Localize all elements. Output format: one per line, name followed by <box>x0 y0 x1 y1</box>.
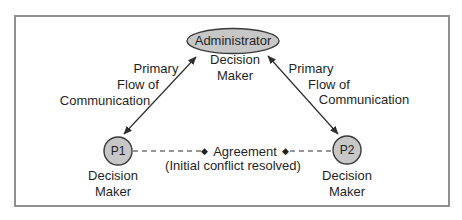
p1-role-line2: Maker <box>88 184 138 200</box>
administrator-role-line1: Decision <box>210 52 260 68</box>
right-flow-label-line1: Primary <box>289 61 334 77</box>
diamond-icon: ◆ <box>201 147 208 156</box>
p2-label: P2 <box>340 142 355 158</box>
left-flow-label-line2: Flow of <box>117 77 159 93</box>
left-flow-label-line1: Primary <box>134 61 179 77</box>
p2-role-line1: Decision <box>322 168 372 184</box>
administrator-label: Administrator <box>195 33 272 49</box>
p1-label: P1 <box>111 143 126 159</box>
administrator-role-line2: Maker <box>210 68 260 84</box>
agreement-annotation: ◆ Agreement ◆ <box>201 144 289 159</box>
p1-role-line1: Decision <box>88 168 138 184</box>
left-flow-label-line3: Communication <box>60 93 150 109</box>
right-flow-label-line3: Communication <box>319 92 409 108</box>
administrator-role: Decision Maker <box>210 52 260 84</box>
right-flow-label-line2: Flow of <box>308 77 350 93</box>
diamond-icon: ◆ <box>282 147 289 156</box>
diagram-canvas: Administrator Decision Maker Primary Flo… <box>0 0 462 220</box>
p2-role: Decision Maker <box>322 168 372 200</box>
p1-role: Decision Maker <box>88 168 138 200</box>
agreement-label: Agreement <box>213 144 277 159</box>
agreement-subtitle: (Initial conflict resolved) <box>165 158 301 174</box>
p2-role-line2: Maker <box>322 184 372 200</box>
